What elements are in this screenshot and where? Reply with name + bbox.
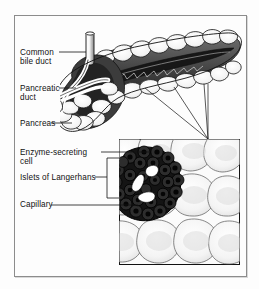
label-pancreas: Pancreas <box>20 119 55 128</box>
label-capillary: Capillary <box>20 200 53 209</box>
magnified-tissue-inset <box>101 131 251 264</box>
illustration-canvas <box>0 0 259 289</box>
inset-bracket <box>107 158 119 198</box>
label-islets-of-langerhans: Islets of Langerhans <box>20 173 96 182</box>
figure-container: Common bile duct Pancreatic duct Pancrea… <box>0 0 259 289</box>
pancreas-organ-drawing <box>51 30 241 132</box>
label-enzyme-secreting-cell: Enzyme-secreting cell <box>20 148 87 167</box>
label-common-bile-duct: Common bile duct <box>20 48 54 67</box>
label-pancreatic-duct: Pancreatic duct <box>20 84 60 103</box>
